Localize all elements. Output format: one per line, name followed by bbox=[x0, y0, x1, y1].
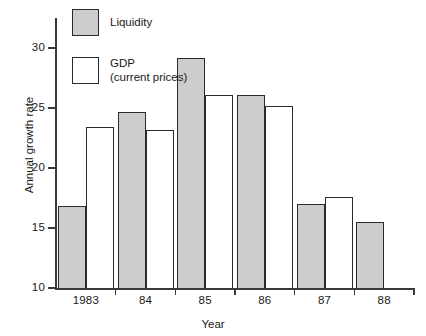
bar-gdp-84 bbox=[146, 130, 174, 288]
x-tick-1 bbox=[115, 288, 117, 295]
y-axis-line bbox=[55, 18, 57, 289]
y-tick-30 bbox=[48, 47, 56, 49]
x-axis-title: Year bbox=[0, 318, 426, 330]
x-tick-2 bbox=[175, 288, 177, 295]
x-tick-3 bbox=[234, 288, 236, 295]
bar-gdp-1983 bbox=[86, 127, 114, 288]
bar-gdp-86 bbox=[265, 106, 293, 288]
y-tick-15 bbox=[48, 227, 56, 229]
legend-label-gdp: GDP (current prices) bbox=[110, 57, 187, 84]
bar-liquidity-85 bbox=[177, 58, 205, 288]
bar-liquidity-87 bbox=[297, 204, 325, 288]
y-tick-25 bbox=[48, 107, 56, 109]
legend-label-liquidity: Liquidity bbox=[110, 16, 152, 30]
y-axis-title: Annual growth rate bbox=[23, 65, 35, 225]
x-tick-5 bbox=[354, 288, 356, 295]
x-tick-label-1983: 1983 bbox=[64, 294, 108, 306]
bar-liquidity-88 bbox=[356, 222, 384, 288]
bar-liquidity-84 bbox=[118, 112, 146, 288]
bar-liquidity-1983 bbox=[58, 206, 86, 288]
x-tick-label-87: 87 bbox=[303, 294, 347, 306]
y-tick-20 bbox=[48, 167, 56, 169]
legend-swatch-gdp bbox=[72, 57, 99, 84]
legend-swatch-liquidity bbox=[72, 9, 99, 36]
bar-gdp-85 bbox=[205, 95, 233, 288]
bar-liquidity-86 bbox=[237, 95, 265, 288]
x-tick-label-84: 84 bbox=[124, 294, 168, 306]
x-tick-4 bbox=[294, 288, 296, 295]
x-tick-6 bbox=[413, 288, 415, 295]
legend-label-gdp-sub: (current prices) bbox=[110, 71, 187, 85]
x-tick-label-88: 88 bbox=[362, 294, 406, 306]
y-tick-10 bbox=[48, 287, 56, 289]
x-tick-label-85: 85 bbox=[183, 294, 227, 306]
y-tick-label-10: 10 bbox=[5, 282, 45, 294]
bar-gdp-87 bbox=[325, 197, 353, 288]
legend-label-gdp-main: GDP bbox=[110, 57, 135, 69]
bar-chart: 1015202530 19838485868788 Annual growth … bbox=[0, 0, 426, 336]
x-tick-label-86: 86 bbox=[243, 294, 287, 306]
y-tick-label-30: 30 bbox=[5, 42, 45, 54]
